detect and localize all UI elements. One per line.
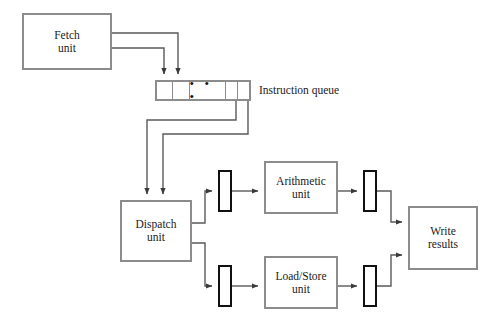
fetch-unit-label-line2: unit (54, 42, 80, 55)
diagram-canvas: Fetch unit • • • Instruction queue Dispa… (0, 0, 502, 330)
write-results-label-line2: results (428, 238, 458, 251)
wire-ls-out-to-write (377, 255, 402, 286)
dispatch-unit-label-line2: unit (136, 231, 177, 244)
wire-fetch-to-queue-2 (112, 48, 164, 74)
write-results-label-line1: Write (428, 225, 458, 238)
block-dispatch-unit: Dispatch unit (120, 200, 192, 262)
dispatch-unit-label: Dispatch unit (136, 218, 177, 244)
load-store-output-buffer (363, 265, 377, 307)
load-store-unit-label-line1: Load/Store (275, 270, 326, 283)
load-store-unit-label: Load/Store unit (275, 270, 326, 296)
queue-ellipsis-dots: • • • (190, 77, 225, 105)
wire-queue-to-dispatch-1 (163, 100, 248, 194)
wire-fetch-to-queue-1 (112, 33, 178, 74)
block-write-results: Write results (408, 206, 478, 270)
arithmetic-unit-label: Arithmetic unit (276, 175, 326, 201)
queue-cell-0 (157, 82, 173, 99)
block-fetch-unit: Fetch unit (22, 13, 112, 70)
wire-arith-out-to-write (377, 191, 402, 222)
fetch-unit-label-line1: Fetch (54, 29, 80, 42)
arithmetic-output-buffer (363, 170, 377, 212)
queue-cell-1 (173, 82, 189, 99)
load-store-input-buffer (218, 265, 232, 307)
instruction-queue-label: Instruction queue (259, 84, 339, 96)
wire-dispatch-to-arith-buffer (192, 191, 212, 223)
dispatch-unit-label-line1: Dispatch (136, 218, 177, 231)
arithmetic-unit-label-line1: Arithmetic (276, 175, 326, 188)
queue-cell-4 (238, 82, 249, 99)
wire-dispatch-to-ls-buffer (192, 243, 212, 286)
arithmetic-input-buffer (218, 170, 232, 212)
fetch-unit-label: Fetch unit (54, 29, 80, 55)
instruction-queue: • • • (155, 80, 251, 101)
block-arithmetic-unit: Arithmetic unit (264, 161, 338, 214)
arithmetic-unit-label-line2: unit (276, 188, 326, 201)
block-load-store-unit: Load/Store unit (264, 256, 338, 309)
write-results-label: Write results (428, 225, 458, 251)
queue-cell-3 (226, 82, 238, 99)
queue-cell-ellipsis: • • • (190, 82, 226, 99)
load-store-unit-label-line2: unit (275, 283, 326, 296)
